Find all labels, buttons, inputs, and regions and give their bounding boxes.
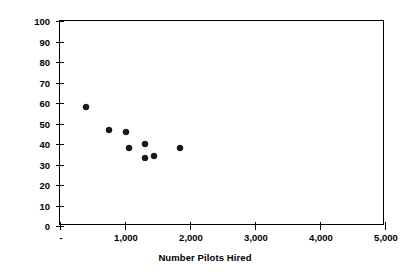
x-axis-tick-label: 2,000: [179, 231, 203, 244]
data-point-marker: [141, 140, 149, 148]
y-axis-tick: 70: [56, 83, 64, 84]
scatter-chart: 0102030405060708090100 -1,0002,0003,0004…: [0, 0, 410, 275]
y-axis-tick: 40: [56, 144, 64, 145]
x-axis-tick: 1,000: [125, 222, 126, 230]
data-point-marker: [105, 125, 113, 133]
data-point-marker: [150, 152, 158, 160]
y-axis-tick-label: 0: [45, 220, 50, 233]
y-axis-tick: 20: [56, 185, 64, 186]
x-axis-tick-label: 4,000: [309, 231, 333, 244]
data-point-marker: [122, 127, 130, 135]
y-axis-tick-label: 30: [39, 159, 50, 172]
x-axis-tick: 2,000: [190, 222, 191, 230]
y-axis-tick-label: 50: [39, 118, 50, 131]
y-axis-tick-label: 40: [39, 138, 50, 151]
data-point-marker: [82, 103, 90, 111]
x-axis-title: Number Pilots Hired: [0, 252, 410, 263]
data-point-marker: [125, 144, 133, 152]
y-axis-tick-label: 90: [39, 36, 50, 49]
y-axis-tick-label: 80: [39, 56, 50, 69]
y-axis-tick: 100: [56, 21, 64, 22]
y-axis-tick: 50: [56, 124, 64, 125]
y-axis-tick: 80: [56, 62, 64, 63]
plot-area: 0102030405060708090100 -1,0002,0003,0004…: [59, 20, 384, 225]
x-axis-tick-label: 5,000: [374, 231, 398, 244]
y-axis-tick: 10: [56, 206, 64, 207]
data-point-marker: [141, 154, 149, 162]
x-axis-tick-label: 1,000: [114, 231, 138, 244]
y-axis-tick-label: 70: [39, 77, 50, 90]
y-axis-tick-label: 60: [39, 97, 50, 110]
x-axis-tick-label: -: [59, 231, 62, 244]
x-axis-tick: 3,000: [255, 222, 256, 230]
y-axis-tick-label: 10: [39, 200, 50, 213]
y-axis-tick: 30: [56, 165, 64, 166]
x-axis-tick: 4,000: [320, 222, 321, 230]
y-axis-tick: 60: [56, 103, 64, 104]
x-axis-tick-label: 3,000: [244, 231, 268, 244]
y-axis-tick: 90: [56, 42, 64, 43]
x-axis-tick: 5,000: [385, 222, 386, 230]
y-axis-tick-label: 20: [39, 179, 50, 192]
y-axis-tick-label: 100: [34, 15, 50, 28]
x-axis-tick: -: [60, 222, 61, 230]
data-point-marker: [176, 144, 184, 152]
